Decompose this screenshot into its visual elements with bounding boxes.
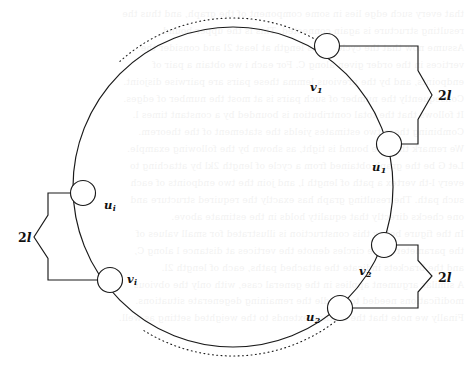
vertex-label-ui: ui — [104, 198, 116, 213]
bracket-label-number: 2 — [18, 230, 27, 245]
vertex-label-subscript: 1 — [381, 165, 387, 175]
bracket-right-top — [327, 46, 432, 144]
dotted-arc-top — [120, 18, 332, 61]
vertex-circle-vi — [98, 268, 123, 293]
vertex-label-subscript: 2 — [366, 269, 372, 279]
vertex-label-subscript: 2 — [315, 315, 321, 325]
bracket-label-variable: l — [447, 270, 452, 285]
diagram-svg — [0, 0, 471, 369]
bracket-label-variable: l — [447, 88, 452, 103]
vertex-label-base: v — [359, 264, 366, 278]
vertex-circle-v1 — [315, 34, 340, 59]
bracket-label-number: 2 — [438, 88, 447, 103]
bracket-label-number: 2 — [438, 270, 447, 285]
vertices-group — [71, 34, 402, 321]
vertex-label-base: v — [310, 80, 317, 94]
vertex-label-vi: vi — [127, 272, 137, 287]
vertex-circle-u2 — [328, 296, 353, 321]
vertex-circle-ui — [71, 181, 96, 206]
bracket-label-bracket-left: 2l — [18, 230, 31, 245]
brackets-group — [34, 46, 432, 308]
vertex-label-base: u — [372, 160, 380, 174]
vertex-label-base: v — [127, 272, 134, 286]
vertex-label-subscript: i — [113, 203, 116, 213]
vertex-label-subscript: i — [134, 277, 137, 287]
bracket-left — [34, 193, 110, 280]
bracket-label-bracket-right-top: 2l — [438, 88, 451, 103]
vertex-label-v2: v2 — [359, 264, 372, 279]
vertex-label-subscript: 1 — [317, 85, 323, 95]
bracket-left-path — [34, 193, 110, 280]
figure-container: that every such edge lies in some compon… — [0, 0, 471, 369]
vertex-circle-u1 — [377, 132, 402, 157]
vertex-circle-v2 — [372, 233, 397, 258]
vertex-label-u2: u2 — [306, 310, 320, 325]
dotted-arcs-group — [120, 18, 342, 356]
bracket-label-bracket-right-bottom: 2l — [438, 270, 451, 285]
vertex-label-base: u — [306, 310, 314, 324]
vertex-label-u1: u1 — [372, 160, 386, 175]
vertex-label-v1: v1 — [310, 80, 323, 95]
vertex-label-base: u — [104, 198, 112, 212]
bracket-right-top-path — [327, 46, 432, 144]
bracket-label-variable: l — [27, 230, 32, 245]
